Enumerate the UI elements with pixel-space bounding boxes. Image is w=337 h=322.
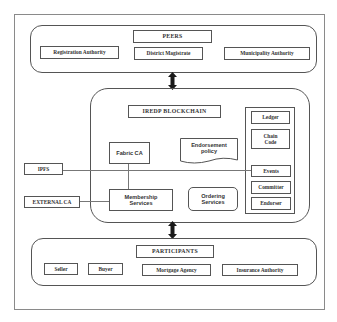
external-ca-box: EXTERNAL CA xyxy=(24,196,80,208)
participant-seller: Seller xyxy=(44,263,78,275)
participants-title: PARTICIPANTS xyxy=(136,245,214,258)
blockchain-title: IREDP BLOCKCHAIN xyxy=(128,105,221,118)
ipfs-box: IPFS xyxy=(24,163,63,175)
connector-ipfs-events xyxy=(62,170,251,171)
ordering-services-box: Ordering Services xyxy=(188,187,238,211)
component-chain-code: Chain Code xyxy=(251,129,290,149)
peer-municipality-authority: Municipality Authority xyxy=(224,47,310,60)
bidirectional-arrow-icon xyxy=(167,221,178,239)
endorsement-policy-label: Endorsement policy xyxy=(183,139,235,157)
component-endorser: Endorser xyxy=(251,197,291,210)
participant-insurance-authority: Insurance Authority xyxy=(222,264,298,276)
participant-buyer: Buyer xyxy=(88,263,123,275)
membership-services-box: Membership Services xyxy=(109,189,173,211)
peer-registration-authority: Registration Authority xyxy=(40,46,119,59)
participant-mortgage-agency: Mortgage Agency xyxy=(142,264,211,276)
peer-district-magistrate: District Magistrate xyxy=(134,47,203,60)
connector-fabric-ca-membership xyxy=(128,163,129,189)
fabric-ca-box: Fabric CA xyxy=(109,142,150,164)
component-events: Events xyxy=(251,165,291,177)
component-committer: Committer xyxy=(251,181,291,194)
peers-title: PEERS xyxy=(133,30,212,43)
connector-external-ca-membership xyxy=(79,201,109,202)
component-ledger: Ledger xyxy=(251,111,290,124)
